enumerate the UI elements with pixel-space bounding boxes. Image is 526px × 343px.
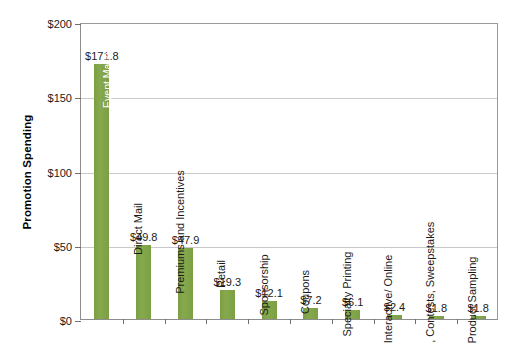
plot-area: $0$50$100$150$200 $171.8Event Marketing$… (80, 23, 498, 320)
x-tick (332, 319, 333, 324)
y-axis-title-text: Promotion Spending (21, 114, 33, 229)
bar[interactable]: $2.4Interactive/ Online (387, 315, 402, 319)
bar[interactable]: $19.3Retail (220, 290, 235, 319)
bar[interactable]: $1.8Product Sampling (471, 316, 486, 319)
y-tick-label: $0 (60, 315, 72, 327)
y-tick (75, 24, 81, 25)
y-tick (75, 247, 81, 248)
y-tick-label: $50 (54, 241, 72, 253)
x-tick (206, 319, 207, 324)
bar[interactable]: $171.8Event Marketing (94, 64, 109, 319)
bar[interactable]: $7.2Coupons (303, 308, 318, 319)
y-tick (75, 321, 81, 322)
x-tick (290, 319, 291, 324)
bar[interactable]: $47.9Premiums and Incentives (178, 248, 193, 319)
y-tick (75, 173, 81, 174)
y-axis-title: Promotion Spending (14, 0, 40, 343)
y-tick-label: $150 (48, 92, 72, 104)
bar[interactable]: $12.1Sponsorship (262, 301, 277, 319)
bar[interactable]: $6.1Specialty Printing (345, 310, 360, 319)
y-tick-label: $100 (48, 167, 72, 179)
x-tick (123, 319, 124, 324)
gridline (81, 98, 497, 99)
x-tick (457, 319, 458, 324)
x-tick (415, 319, 416, 324)
bar[interactable]: $49.8Direct Mail (136, 245, 151, 319)
x-tick (165, 319, 166, 324)
y-tick (75, 98, 81, 99)
bar[interactable]: $1.8Games, Contests, Sweepstakes (429, 316, 444, 319)
y-tick-label: $200 (48, 18, 72, 30)
x-tick (248, 319, 249, 324)
gridline (81, 173, 497, 174)
x-tick (374, 319, 375, 324)
promotion-spending-bar-chart: Promotion Spending $0$50$100$150$200 $17… (0, 0, 526, 343)
